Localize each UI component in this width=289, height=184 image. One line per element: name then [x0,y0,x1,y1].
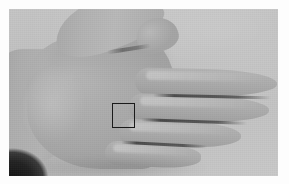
hand [9,9,278,176]
hand-cast-shadow [31,159,241,176]
roi-annotation-box[interactable] [112,103,135,128]
thenar-highlight [23,67,95,159]
index-finger-highlight [146,71,265,83]
ring-finger-highlight [129,122,232,135]
screenshot-root [0,0,289,184]
hand-photograph [9,9,278,176]
